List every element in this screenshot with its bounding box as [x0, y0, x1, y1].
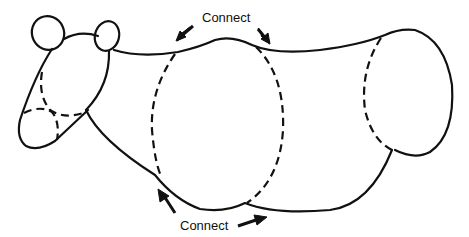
chest-outline [86, 110, 392, 211]
snout-dashed-upper [41, 72, 86, 116]
arrow-right-head [254, 215, 267, 225]
rear-body-dashed [364, 38, 392, 150]
head-right-outline [86, 51, 109, 110]
front-body-dashed-right [247, 47, 283, 203]
head-left-outline [19, 49, 88, 148]
arrow-right-shaft [238, 220, 256, 226]
left-ear [26, 11, 69, 55]
front-body-dashed [152, 54, 175, 178]
connect-label-bottom: Connect [180, 218, 228, 233]
connect-label-top: Connect [202, 10, 250, 25]
diagram-canvas [0, 0, 469, 237]
snout-dashed-lower [24, 109, 58, 140]
balloon-animal-diagram: Connect Connect [0, 0, 469, 237]
head-top [64, 34, 98, 39]
